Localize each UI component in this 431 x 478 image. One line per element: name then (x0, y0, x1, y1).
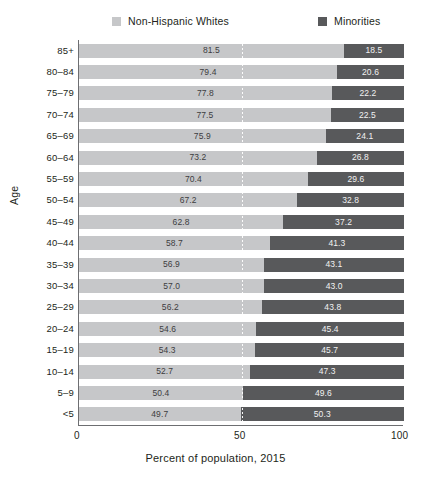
bar-value-non-hispanic-whites: 57.0 (163, 282, 180, 291)
bar-value-non-hispanic-whites: 50.4 (152, 389, 169, 398)
y-axis-tick-label: 80–84 (0, 65, 74, 79)
bar-value-minorities: 29.6 (347, 175, 364, 184)
x-tick-50: 50 (234, 430, 246, 441)
x-tick-0: 0 (74, 430, 80, 441)
bar-row: 54.345.7 (79, 343, 404, 357)
bar-segment-minorities: 47.3 (250, 365, 404, 379)
bar-value-minorities: 43.1 (325, 260, 342, 269)
bar-segment-non-hispanic-whites: 79.4 (79, 65, 337, 79)
bar-segment-minorities: 43.0 (264, 279, 404, 293)
chart-legend: Non-Hispanic Whites Minorities (0, 15, 431, 35)
bar-value-minorities: 45.4 (322, 325, 339, 334)
bar-segment-minorities: 18.5 (344, 44, 404, 58)
bar-segment-non-hispanic-whites: 50.4 (79, 386, 243, 400)
bar-segment-non-hispanic-whites: 58.7 (79, 236, 270, 250)
bar-value-minorities: 18.5 (365, 46, 382, 55)
legend-label-minorities: Minorities (334, 15, 380, 27)
x-tick-100: 100 (391, 430, 408, 441)
bar-value-minorities: 41.3 (328, 239, 345, 248)
bar-value-non-hispanic-whites: 77.8 (197, 89, 214, 98)
bar-segment-minorities: 20.6 (337, 65, 404, 79)
bar-value-non-hispanic-whites: 54.6 (159, 325, 176, 334)
bar-value-non-hispanic-whites: 56.2 (162, 303, 179, 312)
bar-segment-non-hispanic-whites: 62.8 (79, 215, 283, 229)
y-axis-tick-label: 70–74 (0, 108, 74, 122)
y-axis-tick-label: 50–54 (0, 193, 74, 207)
y-axis-tick-labels: 85+80–8475–7970–7465–6960–6455–5950–5445… (0, 40, 74, 425)
bar-segment-minorities: 37.2 (283, 215, 404, 229)
bar-segment-non-hispanic-whites: 57.0 (79, 279, 264, 293)
bar-segment-non-hispanic-whites: 70.4 (79, 172, 308, 186)
bar-row: 49.750.3 (79, 407, 404, 421)
bar-value-minorities: 49.6 (315, 389, 332, 398)
y-axis-tick-label: <5 (0, 407, 74, 421)
bar-value-minorities: 37.2 (335, 218, 352, 227)
bar-segment-non-hispanic-whites: 56.2 (79, 300, 262, 314)
bar-value-minorities: 32.8 (342, 196, 359, 205)
bar-row: 77.822.2 (79, 86, 404, 100)
bar-segment-non-hispanic-whites: 56.9 (79, 258, 264, 272)
bar-row: 70.429.6 (79, 172, 404, 186)
bar-row: 81.518.5 (79, 44, 404, 58)
y-axis-tick-label: 85+ (0, 44, 74, 58)
bar-segment-non-hispanic-whites: 73.2 (79, 151, 317, 165)
bar-row: 73.226.8 (79, 151, 404, 165)
bar-value-non-hispanic-whites: 70.4 (185, 175, 202, 184)
bar-segment-non-hispanic-whites: 81.5 (79, 44, 344, 58)
legend-item-minorities: Minorities (318, 15, 380, 27)
bar-value-non-hispanic-whites: 54.3 (159, 346, 176, 355)
y-axis-tick-label: 75–79 (0, 86, 74, 100)
y-axis-tick-label: 65–69 (0, 129, 74, 143)
bar-segment-minorities: 50.3 (241, 407, 404, 421)
bar-segment-minorities: 32.8 (297, 193, 404, 207)
population-chart-figure: Non-Hispanic Whites Minorities Age 85+80… (0, 0, 431, 478)
bar-value-non-hispanic-whites: 62.8 (173, 218, 190, 227)
bar-value-non-hispanic-whites: 73.2 (189, 153, 206, 162)
x-axis-tick-labels: 0 50 100 (0, 430, 431, 446)
bar-segment-non-hispanic-whites: 54.3 (79, 343, 255, 357)
bar-segment-non-hispanic-whites: 54.6 (79, 322, 256, 336)
bar-row: 62.837.2 (79, 215, 404, 229)
bar-segment-non-hispanic-whites: 75.9 (79, 129, 326, 143)
plot-area: 81.518.579.420.677.822.277.522.575.924.1… (78, 40, 404, 425)
bar-row: 56.243.8 (79, 300, 404, 314)
bar-segment-minorities: 24.1 (326, 129, 404, 143)
bar-value-non-hispanic-whites: 52.7 (156, 367, 173, 376)
bar-value-minorities: 22.5 (359, 111, 376, 120)
bar-segment-minorities: 49.6 (243, 386, 404, 400)
bar-row: 54.645.4 (79, 322, 404, 336)
bar-value-minorities: 22.2 (359, 89, 376, 98)
bar-row: 57.043.0 (79, 279, 404, 293)
y-axis-tick-label: 35–39 (0, 258, 74, 272)
legend-swatch-non-hispanic-whites (112, 17, 121, 26)
bar-value-non-hispanic-whites: 56.9 (163, 260, 180, 269)
bar-segment-non-hispanic-whites: 52.7 (79, 365, 250, 379)
bar-row: 56.943.1 (79, 258, 404, 272)
bar-value-non-hispanic-whites: 49.7 (151, 410, 168, 419)
x-axis-title: Percent of population, 2015 (0, 452, 431, 464)
bar-segment-minorities: 41.3 (270, 236, 404, 250)
y-axis-tick-label: 40–44 (0, 236, 74, 250)
bar-row: 52.747.3 (79, 365, 404, 379)
bar-value-non-hispanic-whites: 58.7 (166, 239, 183, 248)
bar-value-minorities: 20.6 (362, 68, 379, 77)
bar-value-minorities: 47.3 (319, 367, 336, 376)
bar-segment-minorities: 43.1 (264, 258, 404, 272)
legend-label-non-hispanic-whites: Non-Hispanic Whites (128, 15, 229, 27)
y-axis-tick-label: 25–29 (0, 300, 74, 314)
bar-row: 50.449.6 (79, 386, 404, 400)
y-axis-tick-label: 45–49 (0, 215, 74, 229)
bar-rows: 81.518.579.420.677.822.277.522.575.924.1… (79, 40, 404, 425)
bar-segment-minorities: 45.7 (255, 343, 404, 357)
bar-value-non-hispanic-whites: 67.2 (180, 196, 197, 205)
bar-segment-non-hispanic-whites: 77.8 (79, 86, 332, 100)
bar-row: 75.924.1 (79, 129, 404, 143)
bar-value-minorities: 45.7 (321, 346, 338, 355)
bar-value-non-hispanic-whites: 81.5 (203, 46, 220, 55)
bar-row: 58.741.3 (79, 236, 404, 250)
bar-segment-minorities: 45.4 (256, 322, 404, 336)
bar-segment-minorities: 43.8 (262, 300, 404, 314)
bar-row: 67.232.8 (79, 193, 404, 207)
y-axis-tick-label: 5–9 (0, 386, 74, 400)
y-axis-tick-label: 15–19 (0, 343, 74, 357)
